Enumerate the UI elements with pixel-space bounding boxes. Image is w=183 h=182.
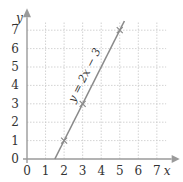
line-chart: 0123456701234567 x y y = 2x − 3 — [0, 0, 183, 182]
x-tick-label: 1 — [42, 164, 50, 178]
y-tick-label: 7 — [11, 23, 19, 37]
x-tick-label: 6 — [134, 164, 142, 178]
x-tick-label: 4 — [97, 164, 105, 178]
x-tick-label: 0 — [23, 164, 31, 178]
data-series — [55, 21, 125, 159]
y-axis-label: y — [15, 11, 23, 25]
y-tick-label: 3 — [11, 97, 19, 111]
y-tick-label: 5 — [11, 60, 19, 74]
x-tick-label: 3 — [79, 164, 87, 178]
y-tick-label: 6 — [11, 42, 19, 56]
grid-lines — [27, 21, 166, 159]
y-tick-label: 2 — [11, 115, 19, 129]
y-tick-label: 4 — [11, 78, 19, 92]
x-axis-label: x — [164, 164, 171, 178]
x-axis-arrow-icon — [172, 155, 180, 163]
x-tick-label: 7 — [153, 164, 161, 178]
x-tick-label: 2 — [60, 164, 68, 178]
x-tick-label: 5 — [116, 164, 124, 178]
y-axis-arrow-icon — [23, 8, 31, 17]
y-tick-label: 0 — [11, 152, 19, 166]
series-line — [55, 21, 125, 159]
y-tick-label: 1 — [11, 134, 19, 148]
equation-label: y = 2x − 3 — [65, 46, 104, 105]
